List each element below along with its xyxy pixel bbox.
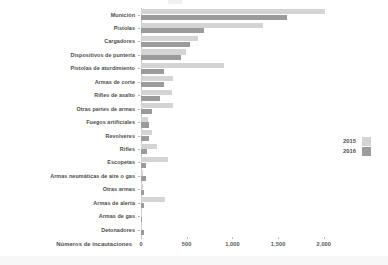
legend-label: 2015 (332, 136, 356, 146)
bar-2016 (141, 28, 204, 33)
bar-2015 (141, 197, 165, 202)
bar-2015 (141, 9, 325, 14)
x-tick-mark (187, 237, 188, 239)
category-label: Armas de corte (95, 76, 135, 89)
bar-2016 (141, 82, 164, 87)
category-label: Rifles (120, 143, 135, 156)
bar-row: Fuegos artificiales (0, 116, 388, 129)
bar-row: Armas de gas (0, 210, 388, 223)
bar-2015 (141, 103, 173, 108)
bar-2015 (141, 224, 142, 229)
bar-row: Cargadores (0, 35, 388, 48)
bar-2016 (141, 96, 160, 101)
category-label: Revolveres (105, 130, 135, 143)
bar-2015 (141, 144, 157, 149)
bar-row: Revolveres (0, 130, 388, 143)
x-axis-title: Números de incautaciones (56, 241, 132, 247)
category-label: Cargadores (104, 35, 135, 48)
category-label: Dispositivos de puntería (70, 49, 135, 62)
category-label: Otras armas (103, 183, 135, 196)
legend-item[interactable]: 2015 (332, 136, 384, 146)
category-label: Fuegos artificiales (86, 116, 135, 129)
x-tick-label: 0 (139, 241, 142, 247)
bar-2015 (141, 117, 148, 122)
x-tick-label: 1,000 (225, 241, 240, 247)
bar-2016 (141, 176, 146, 181)
bar-2016 (141, 15, 287, 20)
category-label: Otras partes de armas (76, 103, 135, 116)
x-tick-mark (278, 237, 279, 239)
bar-2016 (141, 163, 146, 168)
bar-row: Armas neumáticas de aire o gas (0, 170, 388, 183)
category-label: Pistolas (114, 22, 135, 35)
bar-2015 (141, 130, 152, 135)
bar-row: Pistolas de aturdimiento (0, 62, 388, 75)
bar-2015 (141, 63, 224, 68)
x-tick-label: 500 (182, 241, 192, 247)
bar-2016 (141, 190, 144, 195)
category-label: Escopetas (107, 156, 135, 169)
x-tick-mark (324, 237, 325, 239)
bar-row: Pistolas (0, 22, 388, 35)
bar-row: Escopetas (0, 156, 388, 169)
bar-2016 (141, 149, 147, 154)
bar-2016 (141, 136, 149, 141)
bar-chart: MuniciónPistolasCargadoresDispositivos d… (0, 0, 388, 265)
bar-2016 (141, 42, 190, 47)
bar-row: Munición (0, 9, 388, 22)
category-label: Munición (111, 9, 135, 22)
legend-label: 2016 (332, 146, 356, 156)
chart-legend: 20152016 (332, 136, 384, 156)
scan-artifact-bottom (0, 256, 388, 265)
bar-2016 (141, 122, 149, 127)
bar-row: Otras armas (0, 183, 388, 196)
bar-2016 (141, 109, 152, 114)
bar-2015 (141, 170, 143, 175)
legend-swatch-2015 (362, 137, 371, 146)
x-tick-mark (232, 237, 233, 239)
category-label: Armas de alerta (93, 197, 135, 210)
bar-row: Rifles (0, 143, 388, 156)
x-tick-label: 1,500 (271, 241, 286, 247)
bar-row: Armas de alerta (0, 197, 388, 210)
legend-swatch-2016 (362, 147, 371, 156)
category-label: Rifles de asalto (94, 89, 135, 102)
category-label: Pistolas de aturdimiento (70, 62, 135, 75)
bar-row: Detonadores (0, 224, 388, 237)
bar-2015 (141, 36, 198, 41)
legend-item[interactable]: 2016 (332, 146, 384, 156)
bar-row: Rifles de asalto (0, 89, 388, 102)
bar-row: Dispositivos de puntería (0, 49, 388, 62)
category-label: Detonadores (101, 224, 135, 237)
bar-2016 (141, 55, 181, 60)
bar-2016 (141, 69, 164, 74)
bar-2015 (141, 90, 172, 95)
x-tick-mark (141, 237, 142, 239)
bar-2015 (141, 211, 142, 216)
bar-2015 (141, 23, 263, 28)
bar-row: Otras partes de armas (0, 103, 388, 116)
bar-2015 (141, 49, 186, 54)
bar-2016 (141, 203, 144, 208)
chart-page: MuniciónPistolasCargadoresDispositivos d… (0, 0, 388, 265)
bar-2015 (141, 184, 143, 189)
x-tick-label: 2,000 (317, 241, 332, 247)
category-label: Armas de gas (99, 210, 135, 223)
category-label: Armas neumáticas de aire o gas (50, 170, 135, 183)
bar-2015 (141, 76, 173, 81)
bar-2016 (141, 217, 142, 222)
bar-row: Armas de corte (0, 76, 388, 89)
bar-2015 (141, 157, 168, 162)
bar-2016 (141, 230, 144, 235)
